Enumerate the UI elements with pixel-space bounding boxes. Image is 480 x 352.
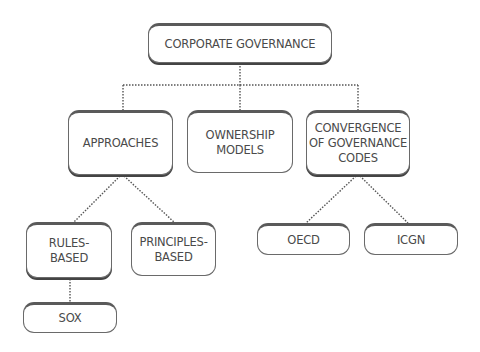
node-label: PRINCIPLES- BASED <box>139 235 207 265</box>
node-label: ICGN <box>397 233 425 248</box>
node-label: CORPORATE GOVERNANCE <box>165 37 316 52</box>
node-label: OWNERSHIP MODELS <box>206 128 275 158</box>
node-approaches: APPROACHES <box>68 110 173 175</box>
node-rules-based: RULES- BASED <box>26 222 112 278</box>
node-ownership-models: OWNERSHIP MODELS <box>187 110 293 173</box>
node-label: RULES- BASED <box>49 236 89 266</box>
node-convergence-of-governance-codes: CONVERGENCE OF GOVERNANCE CODES <box>306 110 410 175</box>
node-label: CONVERGENCE OF GOVERNANCE CODES <box>309 121 407 166</box>
node-corporate-governance: CORPORATE GOVERNANCE <box>148 23 332 63</box>
node-label: OECD <box>287 233 319 248</box>
node-oecd: OECD <box>257 223 350 255</box>
node-label: SOX <box>59 311 82 326</box>
node-sox: SOX <box>23 302 117 333</box>
node-icgn: ICGN <box>364 223 458 255</box>
node-label: APPROACHES <box>83 136 159 151</box>
node-principles-based: PRINCIPLES- BASED <box>131 222 216 276</box>
